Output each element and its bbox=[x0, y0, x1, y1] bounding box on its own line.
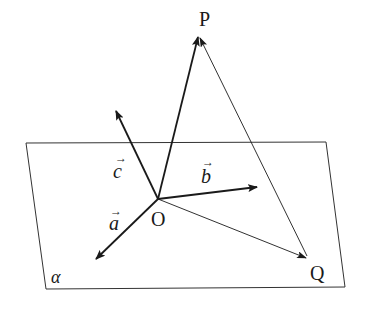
vector-b-arrow bbox=[158, 187, 257, 199]
plane-alpha bbox=[26, 142, 345, 289]
origin-label-O: O bbox=[151, 208, 165, 230]
vector-OP-arrow bbox=[158, 37, 198, 199]
vector-b-label: b bbox=[201, 165, 211, 187]
vector-c-label: c bbox=[113, 160, 122, 182]
vector-diagram: P O Q α → c → b → a bbox=[0, 0, 371, 313]
point-label-Q: Q bbox=[310, 262, 325, 284]
vector-a-label: a bbox=[109, 212, 119, 234]
segment-QP bbox=[200, 38, 307, 256]
point-label-P: P bbox=[199, 8, 210, 30]
vector-a-arrow bbox=[96, 199, 158, 259]
plane-label-alpha: α bbox=[51, 267, 61, 287]
